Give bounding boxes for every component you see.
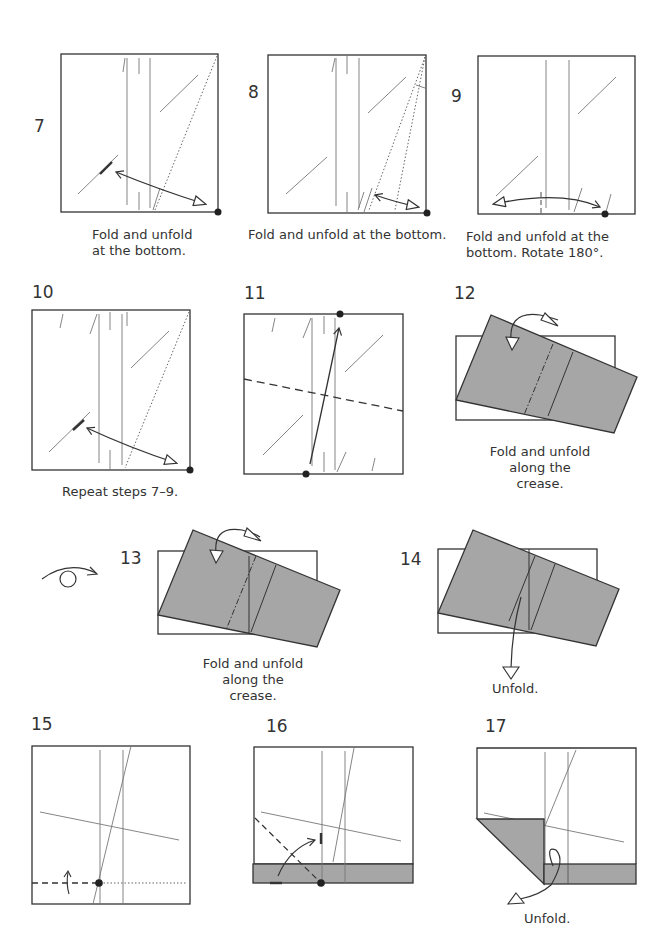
step-8-diagram	[268, 55, 431, 217]
step-number-17: 17	[485, 716, 507, 736]
step-number-9: 9	[451, 86, 462, 106]
caption-step-8: Fold and unfold at the bottom.	[248, 227, 446, 243]
caption-step-13: Fold and unfold along the crease.	[198, 656, 308, 704]
step-number-16: 16	[266, 716, 288, 736]
step-number-12: 12	[454, 283, 476, 303]
step-13-diagram	[158, 528, 340, 647]
turn-over-icon	[42, 567, 97, 587]
caption-step-9: Fold and unfold at the bottom. Rotate 18…	[466, 229, 609, 261]
step-11-diagram	[244, 311, 403, 478]
step-number-7: 7	[34, 116, 45, 136]
step-7-diagram	[61, 54, 222, 216]
caption-step-7: Fold and unfold at the bottom.	[92, 227, 192, 259]
step-number-14: 14	[400, 549, 422, 569]
step-number-13: 13	[120, 548, 142, 568]
step-12-diagram	[456, 313, 637, 433]
step-17-diagram	[477, 748, 636, 904]
step-14-diagram	[438, 530, 619, 679]
step-number-15: 15	[31, 714, 53, 734]
step-number-11: 11	[244, 283, 266, 303]
step-15-diagram	[32, 746, 190, 904]
step-16-diagram	[253, 747, 413, 887]
caption-step-14: Unfold.	[492, 681, 538, 697]
caption-step-17: Unfold.	[524, 911, 570, 927]
step-10-diagram	[32, 310, 194, 474]
caption-step-12: Fold and unfold along the crease.	[485, 444, 595, 492]
caption-step-10: Repeat steps 7–9.	[62, 484, 178, 500]
step-number-8: 8	[248, 82, 259, 102]
step-9-diagram	[478, 56, 635, 218]
step-number-10: 10	[32, 282, 54, 302]
